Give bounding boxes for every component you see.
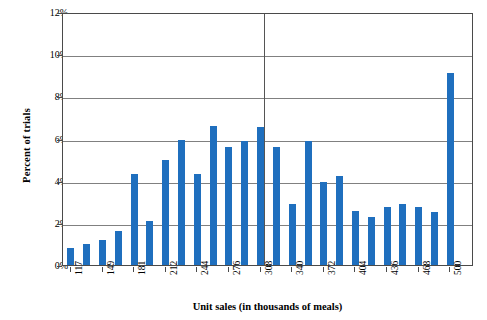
x-tick-label: 117 <box>74 261 84 275</box>
gridline <box>63 56 472 57</box>
reference-line <box>264 14 265 265</box>
gridline <box>63 183 472 184</box>
bar <box>241 141 248 265</box>
bar <box>178 140 185 265</box>
bar <box>83 244 90 265</box>
x-tick-mark <box>386 267 387 272</box>
x-tick-mark <box>102 267 103 272</box>
x-tick-mark <box>196 267 197 272</box>
bar <box>210 126 217 265</box>
bar <box>146 221 153 265</box>
bar <box>431 212 438 265</box>
x-tick-label: 372 <box>327 261 337 275</box>
gridline <box>63 141 472 142</box>
x-tick-mark <box>260 267 261 272</box>
x-tick-mark <box>133 267 134 272</box>
bar <box>384 207 391 265</box>
bar <box>399 204 406 265</box>
x-tick-mark <box>70 267 71 272</box>
gridline <box>63 98 472 99</box>
x-tick-label: 244 <box>200 261 210 275</box>
bar <box>194 174 201 265</box>
x-tick-mark <box>165 267 166 272</box>
bar <box>447 73 454 265</box>
y-tick-mark <box>57 266 62 267</box>
bar <box>289 204 296 265</box>
x-tick-label: 181 <box>137 261 147 275</box>
gridline <box>63 225 472 226</box>
x-axis-title: Unit sales (in thousands of meals) <box>62 301 473 312</box>
bar <box>162 160 169 265</box>
bar <box>415 207 422 265</box>
bar <box>273 147 280 265</box>
bar <box>99 240 106 265</box>
x-tick-mark <box>291 267 292 272</box>
x-tick-mark <box>418 267 419 272</box>
bar <box>336 176 343 265</box>
x-tick-mark <box>323 267 324 272</box>
x-tick-label: 308 <box>264 261 274 275</box>
histogram-figure: Percent of trials 0%2%4%6%8%10%12% 11714… <box>0 0 487 320</box>
x-tick-mark <box>449 267 450 272</box>
bar <box>368 217 375 265</box>
x-tick-label: 468 <box>422 261 432 275</box>
bar <box>131 174 138 265</box>
x-tick-label: 500 <box>453 261 463 275</box>
x-tick-label: 212 <box>169 261 179 275</box>
bar <box>225 147 232 265</box>
x-tick-mark <box>354 267 355 272</box>
bar <box>320 182 327 265</box>
bar <box>352 211 359 265</box>
x-tick-label: 436 <box>390 261 400 275</box>
plot-area <box>62 13 473 266</box>
x-tick-mark <box>228 267 229 272</box>
x-tick-label: 404 <box>358 261 368 275</box>
x-tick-label: 149 <box>106 261 116 275</box>
x-tick-label: 340 <box>295 261 305 275</box>
bar <box>305 141 312 265</box>
x-tick-label: 276 <box>232 261 242 275</box>
y-axis-title: Percent of trials <box>21 66 32 226</box>
